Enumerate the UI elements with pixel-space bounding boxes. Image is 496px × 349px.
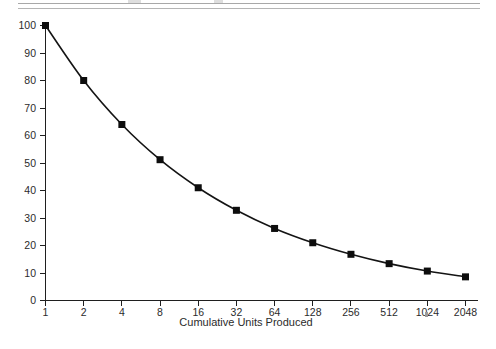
x-tick-label: 2048 bbox=[454, 306, 478, 318]
y-tick-label: 60 bbox=[24, 129, 36, 141]
data-point-marker bbox=[233, 207, 240, 214]
x-tick-label: 2 bbox=[81, 306, 87, 318]
y-tick-label: 50 bbox=[24, 157, 36, 169]
x-tick-label: 1 bbox=[43, 306, 49, 318]
scan-artifact-axis bbox=[425, 312, 428, 317]
x-axis-title: Cumulative Units Produced bbox=[179, 316, 312, 328]
x-tick-label: 8 bbox=[157, 306, 163, 318]
y-tick-label: 0 bbox=[30, 294, 36, 306]
data-point-marker bbox=[80, 77, 87, 84]
y-axis-ticks bbox=[40, 26, 46, 301]
y-tick-label: 80 bbox=[24, 74, 36, 86]
data-point-marker bbox=[42, 22, 49, 29]
data-point-marker bbox=[424, 268, 431, 275]
y-tick-label: 100 bbox=[18, 19, 36, 31]
x-tick-label: 256 bbox=[342, 306, 360, 318]
learning-curve-chart: 0102030405060708090100 12481632641282565… bbox=[0, 0, 496, 349]
data-point-marker bbox=[157, 156, 164, 163]
y-tick-label: 90 bbox=[24, 47, 36, 59]
x-tick-label: 512 bbox=[380, 306, 398, 318]
data-point-markers bbox=[42, 22, 469, 280]
y-tick-label: 10 bbox=[24, 267, 36, 279]
y-tick-label: 70 bbox=[24, 102, 36, 114]
data-point-marker bbox=[195, 184, 202, 191]
data-point-marker bbox=[309, 239, 316, 246]
chart-axes bbox=[45, 25, 478, 301]
data-point-marker bbox=[386, 260, 393, 267]
data-point-marker bbox=[118, 121, 125, 128]
y-tick-label: 40 bbox=[24, 184, 36, 196]
learning-curve-line bbox=[46, 26, 466, 277]
data-point-marker bbox=[271, 225, 278, 232]
y-tick-label: 20 bbox=[24, 239, 36, 251]
y-tick-label: 30 bbox=[24, 212, 36, 224]
x-tick-label: 4 bbox=[119, 306, 125, 318]
data-point-marker bbox=[462, 273, 469, 280]
y-axis-tick-labels: 0102030405060708090100 bbox=[18, 19, 36, 306]
data-point-marker bbox=[347, 251, 354, 258]
x-axis-ticks bbox=[46, 301, 466, 307]
